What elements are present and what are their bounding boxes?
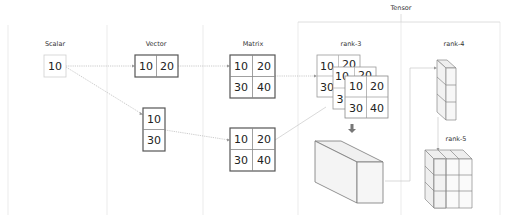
vector-row-cell: 20 [160,60,174,73]
scalar-box: 10 [44,55,66,77]
matrix-cell: 10 [234,60,248,73]
matrix-cell: 20 [257,133,271,146]
vector-row-box: 10 20 [135,55,178,77]
scalar-value: 10 [48,60,62,73]
tensor-group-bracket [298,14,500,22]
rank3-label: rank-3 [340,40,361,48]
rank4-label: rank-4 [443,40,464,48]
tensor-group-label: Tensor [389,4,411,12]
rank3-front-matrix: 10 20 30 40 [345,76,388,118]
down-arrow-icon [348,124,356,133]
matrix-bottom-box: 10 20 30 40 [230,128,275,171]
rank3-cell: 3 [337,93,344,106]
matrix-cell: 20 [257,60,271,73]
vector-column-cell: 10 [147,113,161,126]
rank3-cell: 40 [370,102,384,115]
rank3-cell: 30 [320,81,334,94]
rank3-cube-icon [315,141,383,203]
matrix-cell: 30 [234,154,248,167]
scalar-label: Scalar [45,40,65,48]
rank3-cell: 30 [349,102,363,115]
rank3-cell: 10 [349,80,363,93]
rank3-cell: 20 [370,80,384,93]
matrix-top-box: 10 20 30 40 [230,55,275,98]
vector-label: Vector [146,40,167,48]
rank3-stack: 10 20 30 10 20 3 10 20 30 40 [317,55,388,118]
matrix-label: Matrix [243,40,264,48]
matrix-cell: 30 [234,81,248,94]
matrix-cell: 40 [257,154,271,167]
rank5-label: rank-5 [445,135,466,143]
connector-lines [66,66,316,140]
rank5-cube-grid-icon [425,150,472,208]
vector-row-cell: 10 [139,60,153,73]
matrix-cell: 10 [234,133,248,146]
rank4-cube-stack-icon [437,60,456,120]
vector-column-box: 10 30 [143,108,165,151]
tensor-rank-diagram: Tensor Scalar Vector Matrix rank-3 rank-… [0,0,508,221]
matrix-cell: 40 [257,81,271,94]
vector-column-cell: 30 [147,134,161,147]
rank3-cell: 10 [320,60,334,73]
